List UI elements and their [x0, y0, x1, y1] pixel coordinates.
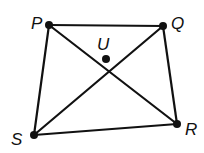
point-P [45, 21, 53, 29]
segment-SP [34, 25, 49, 135]
point-R [173, 120, 181, 128]
point-U [102, 55, 110, 63]
point-S [30, 131, 38, 139]
label-S: S [11, 130, 23, 149]
segment-PR [49, 25, 177, 124]
segment-RS [34, 124, 177, 135]
segment-PQ [49, 25, 163, 26]
label-R: R [185, 120, 197, 139]
geometry-diagram: P Q U S R [0, 0, 204, 153]
segment-QR [163, 26, 177, 124]
label-P: P [31, 14, 43, 33]
label-Q: Q [171, 14, 184, 33]
point-Q [159, 22, 167, 30]
label-U: U [97, 35, 110, 54]
